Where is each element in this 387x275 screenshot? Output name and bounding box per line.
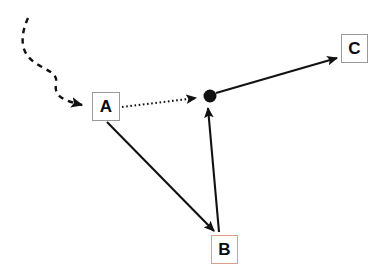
edge-junction-to-c bbox=[216, 58, 337, 93]
junction-dot bbox=[204, 90, 217, 103]
diagram-canvas: A B C bbox=[0, 0, 387, 275]
node-b[interactable]: B bbox=[211, 235, 238, 264]
diagram-svg bbox=[0, 0, 387, 275]
edge-inbound-dashed bbox=[23, 18, 82, 105]
edge-b-to-junction bbox=[208, 108, 219, 232]
edge-a-to-b bbox=[107, 122, 214, 231]
edge-a-to-junction bbox=[122, 98, 196, 107]
node-c-label: C bbox=[348, 40, 360, 57]
node-a-label: A bbox=[100, 98, 112, 115]
node-c[interactable]: C bbox=[341, 34, 368, 63]
node-b-label: B bbox=[218, 241, 230, 258]
node-a[interactable]: A bbox=[92, 92, 120, 121]
